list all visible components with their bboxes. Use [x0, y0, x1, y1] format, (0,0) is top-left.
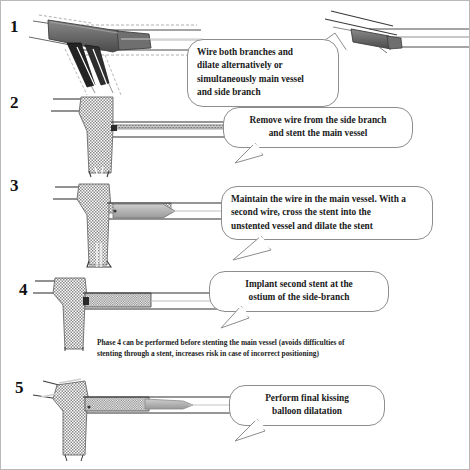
callout-2-tail: [229, 141, 289, 167]
callout-1: Wire both branches and dilate alternativ…: [187, 39, 339, 107]
callout-4-line-2: ostium of the side-branch: [219, 291, 379, 304]
phase-4-note-line-1: Phase 4 can be performed before stenting…: [97, 337, 427, 348]
callout-1-line-3: simultaneously main vessel: [197, 73, 329, 86]
phase-4-note: Phase 4 can be performed before stenting…: [97, 337, 427, 359]
callout-3: Maintain the wire in the main vessel. Wi…: [221, 186, 433, 240]
step-number-2: 2: [10, 94, 19, 111]
phase-4-note-line-2: stenting through a stent, increases risk…: [97, 348, 427, 359]
callout-4-tail: [215, 304, 273, 330]
callout-4-line-1: Implant second stent at the: [219, 278, 379, 291]
diagram-page: 1 2 3 4 5: [0, 0, 470, 470]
callout-5-tail: [229, 417, 287, 445]
callout-3-line-1: Maintain the wire in the main vessel. Wi…: [231, 193, 423, 206]
callout-2-line-1: Remove wire from the side branch: [233, 114, 403, 127]
figure-step-2: [51, 95, 251, 177]
step-number-1: 1: [10, 18, 19, 35]
callout-3-line-3: unstented vessel and dilate the stent: [231, 220, 423, 233]
callout-1-line-1: Wire both branches and: [197, 46, 329, 59]
step-number-3: 3: [10, 177, 19, 194]
callout-5-line-1: Perform final kissing: [239, 392, 375, 405]
figure-step-1: [21, 3, 206, 95]
callout-1-line-4: and side branch: [197, 86, 329, 99]
step-number-4: 4: [19, 281, 28, 298]
callout-2-line-2: and stent the main vessel: [233, 127, 403, 140]
figure-step-5: [33, 377, 233, 461]
callout-3-line-2: second wire, cross the stent into the: [231, 206, 423, 219]
callout-1-line-2: dilate alternatively or: [197, 59, 329, 72]
callout-3-tail: [227, 234, 291, 264]
step-number-5: 5: [15, 379, 24, 396]
